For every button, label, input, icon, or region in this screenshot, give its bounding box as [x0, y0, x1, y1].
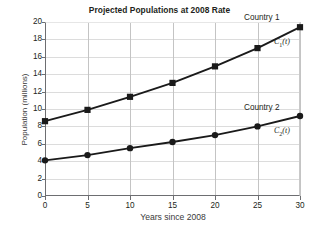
data-point-circle	[169, 139, 175, 145]
y-tick-label: 4	[12, 157, 42, 165]
x-tick-mark	[173, 196, 174, 200]
data-point-square	[84, 107, 90, 113]
x-tick-label: 15	[161, 202, 185, 210]
x-tick-mark	[88, 196, 89, 200]
y-tick-label: 18	[12, 35, 42, 43]
x-tick-mark	[300, 196, 301, 200]
y-tick-label: 0	[12, 192, 42, 200]
x-tick-label: 0	[33, 202, 57, 210]
data-point-square	[169, 80, 175, 86]
data-point-circle	[42, 157, 48, 163]
series-function-label-1: C1(t)	[274, 37, 290, 48]
y-tick-label: 10	[12, 105, 42, 113]
data-point-circle	[254, 123, 260, 129]
series-function-label-2: C2(t)	[274, 126, 290, 137]
x-axis-label: Years since 2008	[45, 212, 301, 222]
y-tick-label: 6	[12, 140, 42, 148]
x-tick-label: 5	[76, 202, 100, 210]
x-tick-mark	[258, 196, 259, 200]
x-tick-label: 25	[246, 202, 270, 210]
x-tick-label: 10	[118, 202, 142, 210]
data-point-circle	[84, 152, 90, 158]
data-point-square	[42, 118, 48, 124]
x-tick-mark	[215, 196, 216, 200]
data-point-square	[127, 94, 133, 100]
x-tick-mark	[130, 196, 131, 200]
y-tick-label: 16	[12, 53, 42, 61]
series-label-1: Country 1	[244, 13, 280, 22]
x-tick-label: 20	[203, 202, 227, 210]
y-tick-label: 20	[12, 18, 42, 26]
data-point-square	[254, 45, 260, 51]
series-label-2: Country 2	[244, 103, 280, 112]
y-tick-label: 8	[12, 122, 42, 130]
y-tick-label: 12	[12, 88, 42, 96]
chart-figure: Projected Populations at 2008 Rate Popul…	[0, 0, 319, 232]
y-tick-label: 14	[12, 70, 42, 78]
data-point-circle	[297, 113, 303, 119]
x-tick-mark	[45, 196, 46, 200]
data-point-square	[212, 63, 218, 69]
data-point-circle	[212, 132, 218, 138]
data-point-circle	[127, 145, 133, 151]
data-point-square	[297, 24, 303, 30]
x-tick-label: 30	[288, 202, 312, 210]
y-tick-label: 2	[12, 175, 42, 183]
gridline-vertical	[300, 22, 301, 196]
series-line-2	[45, 116, 300, 160]
